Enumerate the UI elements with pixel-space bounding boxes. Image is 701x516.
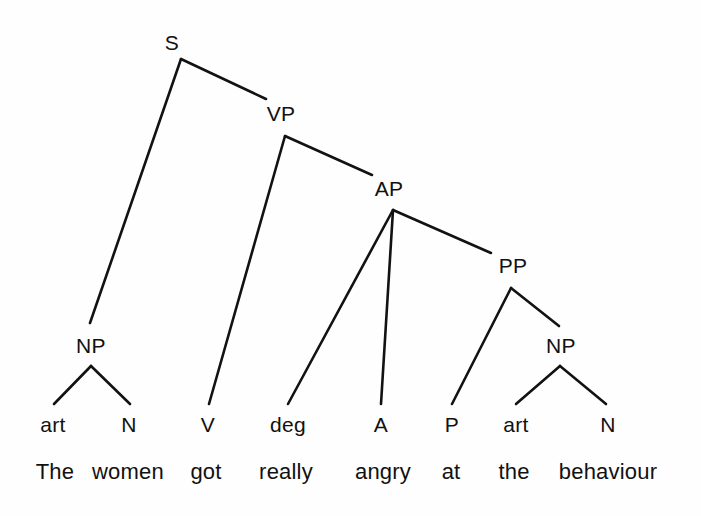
branch-np-subject-to-n (91, 366, 130, 404)
branch-ap-to-deg (288, 210, 393, 404)
word-label: got (190, 459, 221, 484)
pos-label: art (40, 413, 65, 436)
syntax-tree-canvas: S VP AP PP NP NP art N V deg A P art N T… (0, 0, 701, 516)
word-group: The women got really angry at the behavi… (36, 459, 657, 484)
pos-label: N (121, 413, 136, 436)
pos-label: art (503, 413, 528, 436)
branch-pp-to-np-object (511, 288, 559, 326)
word-label: the (498, 459, 529, 484)
word-label: at (442, 459, 461, 484)
pos-label: V (201, 413, 215, 436)
word-label: women (91, 459, 164, 484)
branch-np-subject-to-art (54, 366, 91, 404)
node-label-s: S (165, 31, 179, 54)
node-label-vp: VP (267, 102, 296, 125)
branch-ap-to-a (381, 210, 393, 404)
branch-ap-to-pp (393, 210, 491, 253)
branch-pp-to-p (452, 288, 511, 404)
pos-label: N (600, 413, 615, 436)
word-label: really (259, 459, 313, 484)
branch-s-to-np-subject (90, 59, 181, 323)
pos-label-group: art N V deg A P art N (40, 413, 615, 436)
branch-vp-to-ap (285, 136, 372, 175)
pos-label: P (445, 413, 459, 436)
syntax-tree-figure: S VP AP PP NP NP art N V deg A P art N T… (0, 0, 701, 516)
branch-vp-to-v (209, 136, 285, 404)
word-label: The (36, 459, 75, 484)
node-label-np-subject: NP (76, 334, 106, 357)
branch-np-object-to-n (560, 366, 606, 404)
node-label-pp: PP (499, 254, 528, 277)
node-label-np-object: NP (546, 334, 576, 357)
pos-label: deg (270, 413, 306, 436)
pos-label: A (374, 413, 388, 436)
branch-group (54, 59, 606, 404)
word-label: behaviour (559, 459, 657, 484)
branch-np-object-to-art (516, 366, 560, 404)
word-label: angry (355, 459, 411, 484)
branch-s-to-vp (181, 59, 266, 99)
node-label-ap: AP (375, 177, 404, 200)
